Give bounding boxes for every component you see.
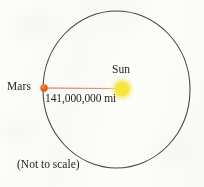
sun-core-icon [115,82,129,96]
sun-label: Sun [112,64,130,76]
orbit-diagram-figure: Mars Sun 141,000,000 mi (Not to scale) [0,0,204,187]
mars-label: Mars [7,81,31,93]
not-to-scale-note: (Not to scale) [17,159,80,171]
distance-label: 141,000,000 mi [45,93,116,105]
mars-dot-icon [40,84,47,91]
